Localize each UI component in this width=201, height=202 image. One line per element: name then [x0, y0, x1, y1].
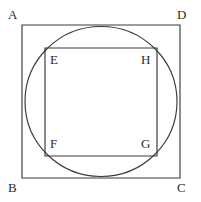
- vertex-label-g: G: [141, 137, 150, 150]
- vertex-label-a: A: [8, 8, 17, 21]
- geometry-figure: A D B C E H F G: [0, 0, 201, 202]
- vertex-label-f: F: [50, 137, 57, 150]
- vertex-label-c: C: [177, 181, 186, 194]
- figure-canvas: [0, 0, 201, 202]
- vertex-label-e: E: [50, 53, 58, 66]
- inscribed-circle: [25, 27, 177, 177]
- vertex-label-h: H: [141, 53, 150, 66]
- vertex-label-d: D: [177, 8, 186, 21]
- vertex-label-b: B: [8, 181, 17, 194]
